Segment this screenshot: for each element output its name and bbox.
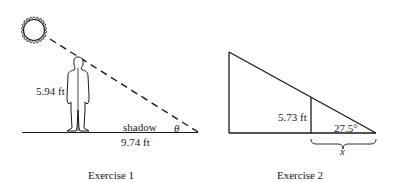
unknown-x-label: x xyxy=(340,146,345,157)
shadow-label: shadow xyxy=(123,122,157,133)
person-icon xyxy=(67,57,89,131)
height-label: 5.94 ft xyxy=(36,86,65,97)
exercise-1-caption: Exercise 1 xyxy=(88,170,134,181)
inner-height-label: 5.73 ft xyxy=(278,112,307,123)
angle-label: 27.5° xyxy=(334,123,358,134)
angle-theta-label: θ xyxy=(174,123,179,134)
exercise-2-caption: Exercise 2 xyxy=(277,170,323,181)
sun-icon xyxy=(21,17,47,44)
shadow-length-label: 9.74 ft xyxy=(121,137,150,148)
